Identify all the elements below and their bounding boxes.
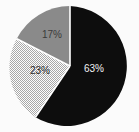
pie-chart-canvas: [0, 0, 139, 132]
pie-slice-label-23: 23%: [30, 66, 50, 76]
pie-slice-label-17: 17%: [42, 30, 62, 40]
pie-slice-label-63: 63%: [84, 64, 104, 74]
pie-chart-figure: 63% 23% 17%: [0, 0, 139, 132]
